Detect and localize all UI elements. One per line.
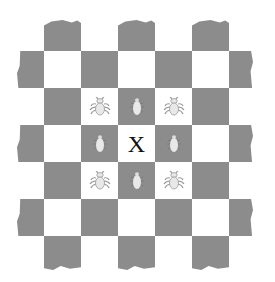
board-square (44, 125, 81, 162)
board-square (44, 162, 81, 199)
board-square (118, 199, 155, 236)
board-square (81, 162, 118, 199)
board-square (155, 20, 192, 51)
board-square (155, 236, 192, 270)
board-square (155, 162, 192, 199)
board-square (229, 162, 253, 199)
board-square (44, 236, 81, 270)
board-square (81, 199, 118, 236)
board-square (118, 162, 155, 199)
board-square: X (118, 125, 155, 162)
board-square (44, 20, 81, 51)
center-x-mark: X (128, 132, 145, 156)
spider-bug-icon (89, 169, 111, 193)
board-square (81, 51, 118, 88)
board-square (17, 199, 44, 236)
board-square (192, 162, 229, 199)
board-square (155, 125, 192, 162)
board-square (81, 236, 118, 270)
board-square (44, 88, 81, 125)
spider-bug-icon (163, 95, 185, 119)
board-square (229, 125, 253, 162)
board-square (155, 88, 192, 125)
board-square (17, 20, 44, 51)
checkerboard: X (0, 0, 275, 282)
board-square (118, 51, 155, 88)
board-square (81, 20, 118, 51)
board-square (44, 199, 81, 236)
board-square (17, 162, 44, 199)
board-square (155, 51, 192, 88)
bug-icon (163, 132, 185, 156)
board-square (192, 88, 229, 125)
board-square (192, 20, 229, 51)
bug-icon (89, 132, 111, 156)
board-square (192, 125, 229, 162)
bug-icon (126, 169, 148, 193)
board-square (17, 88, 44, 125)
board-square (192, 51, 229, 88)
board-square (118, 20, 155, 51)
board-square (44, 51, 81, 88)
board-square (17, 236, 44, 270)
board-square (229, 51, 253, 88)
board-square (118, 236, 155, 270)
board-square (229, 236, 253, 270)
board-square (17, 125, 44, 162)
board-square (155, 199, 192, 236)
spider-bug-icon (163, 169, 185, 193)
board-square (192, 236, 229, 270)
board-square (229, 199, 253, 236)
board-square (229, 88, 253, 125)
board-square (118, 88, 155, 125)
board-square (17, 51, 44, 88)
board-square (81, 88, 118, 125)
bug-icon (126, 95, 148, 119)
spider-bug-icon (89, 95, 111, 119)
board-square (192, 199, 229, 236)
board-square (81, 125, 118, 162)
board-square (229, 20, 253, 51)
